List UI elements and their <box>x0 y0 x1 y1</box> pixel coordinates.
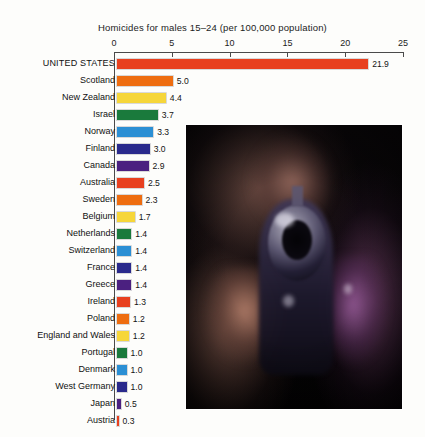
bar[interactable] <box>116 194 143 206</box>
country-label: Japan <box>0 398 115 408</box>
bar-value-label: 0.3 <box>123 416 135 426</box>
country-label: Greece <box>0 279 115 289</box>
bar[interactable] <box>116 160 150 172</box>
bar[interactable] <box>116 262 132 274</box>
bar[interactable] <box>116 92 167 104</box>
bar-value-label: 1.2 <box>133 331 145 341</box>
x-axis: 0510152025 <box>114 38 403 56</box>
country-label: Ireland <box>0 296 115 306</box>
bar[interactable] <box>116 143 151 155</box>
bar-value-label: 1.7 <box>139 212 151 222</box>
x-axis-line <box>114 52 403 53</box>
bar-value-label: 3.0 <box>154 144 166 154</box>
photo-vignette <box>186 125 402 409</box>
bar-value-label: 1.3 <box>134 297 146 307</box>
country-label: Austria <box>0 415 115 425</box>
bar-row[interactable]: Austria0.3 <box>0 413 425 430</box>
bar[interactable] <box>116 245 132 257</box>
country-label: Norway <box>0 126 115 136</box>
bar-value-label: 1.0 <box>131 382 143 392</box>
country-label: Finland <box>0 143 115 153</box>
bar[interactable] <box>116 313 130 325</box>
x-axis-tick-label: 10 <box>225 38 235 48</box>
bar[interactable] <box>116 279 132 291</box>
country-label: Canada <box>0 160 115 170</box>
chart-page: Homicides for males 15–24 (per 100,000 p… <box>0 0 425 437</box>
country-label: Denmark <box>0 364 115 374</box>
country-label: New Zealand <box>0 92 115 102</box>
bar-row[interactable]: UNITED STATES21.9 <box>0 56 425 73</box>
country-label: Scotland <box>0 75 115 85</box>
bar-row[interactable]: Scotland5.0 <box>0 73 425 90</box>
bar[interactable] <box>116 296 131 308</box>
bar-value-label: 3.7 <box>162 110 174 120</box>
country-label: Israel <box>0 109 115 119</box>
country-label: UNITED STATES <box>0 58 115 68</box>
bar[interactable] <box>116 126 154 138</box>
x-axis-tick-label: 20 <box>340 38 350 48</box>
bar[interactable] <box>116 398 122 410</box>
bar-row[interactable]: Israel3.7 <box>0 107 425 124</box>
country-label: England and Wales <box>0 330 115 340</box>
x-axis-tick-label: 0 <box>111 38 116 48</box>
bar-value-label: 1.0 <box>131 348 143 358</box>
bar-row[interactable]: New Zealand4.4 <box>0 90 425 107</box>
bar-value-label: 3.3 <box>157 127 169 137</box>
bar-value-label: 21.9 <box>372 59 389 69</box>
country-label: Netherlands <box>0 228 115 238</box>
bar-value-label: 4.4 <box>170 93 182 103</box>
x-axis-tick-label: 25 <box>398 38 408 48</box>
bar-value-label: 0.5 <box>125 399 137 409</box>
bar-value-label: 1.4 <box>135 280 147 290</box>
bar[interactable] <box>116 58 369 70</box>
country-label: Sweden <box>0 194 115 204</box>
bar[interactable] <box>116 381 128 393</box>
bar-value-label: 2.3 <box>146 195 158 205</box>
bar[interactable] <box>116 415 120 427</box>
country-label: Australia <box>0 177 115 187</box>
bar[interactable] <box>116 75 174 87</box>
country-label: France <box>0 262 115 272</box>
bar-value-label: 1.0 <box>131 365 143 375</box>
bar[interactable] <box>116 109 159 121</box>
bar[interactable] <box>116 228 132 240</box>
bar[interactable] <box>116 211 136 223</box>
bar[interactable] <box>116 364 128 376</box>
bar-value-label: 2.9 <box>153 161 165 171</box>
country-label: Switzerland <box>0 245 115 255</box>
chart-title: Homicides for males 15–24 (per 100,000 p… <box>0 22 425 33</box>
x-axis-tick-label: 5 <box>169 38 174 48</box>
bar-value-label: 1.4 <box>135 263 147 273</box>
bar-value-label: 1.2 <box>133 314 145 324</box>
bar-value-label: 5.0 <box>177 76 189 86</box>
country-label: Poland <box>0 313 115 323</box>
bar[interactable] <box>116 330 130 342</box>
bar[interactable] <box>116 177 145 189</box>
country-label: West Germany <box>0 381 115 391</box>
bar[interactable] <box>116 347 128 359</box>
handgun-photo <box>185 124 403 410</box>
country-label: Portugal <box>0 347 115 357</box>
x-axis-tick-label: 15 <box>282 38 292 48</box>
bar-value-label: 1.4 <box>135 246 147 256</box>
country-label: Belgium <box>0 211 115 221</box>
bar-value-label: 1.4 <box>135 229 147 239</box>
bar-value-label: 2.5 <box>148 178 160 188</box>
